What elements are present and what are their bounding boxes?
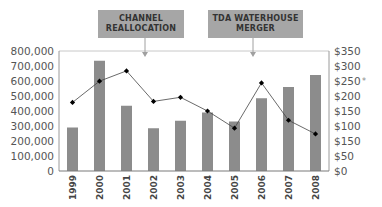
x-tick-label: 2001 <box>122 175 132 200</box>
right-tick-label: $150 <box>334 135 361 147</box>
left-tick-label: 0 <box>47 165 54 177</box>
x-tick-label: 2005 <box>230 175 240 200</box>
price-marker-2006 <box>259 80 264 85</box>
annotation-channel-reallocation: CHANNEL REALLOCATION <box>98 10 184 38</box>
annotation-line: REALLOCATION <box>106 24 176 34</box>
left-tick-label: 300,000 <box>11 120 54 132</box>
bar-2001 <box>121 106 132 171</box>
bar-2003 <box>175 121 186 171</box>
annotation-line: CHANNEL <box>106 14 176 24</box>
bar-2007 <box>283 87 294 171</box>
left-tick-label: 700,000 <box>11 60 54 72</box>
left-tick-label: 400,000 <box>11 105 54 117</box>
chart-canvas: 0100,000200,000300,000400,000500,000600,… <box>0 0 382 207</box>
x-tick-label: 2006 <box>257 175 267 200</box>
left-tick-label: 200,000 <box>11 135 54 147</box>
left-tick-label: 800,000 <box>11 45 54 57</box>
right-tick-label: $100 <box>334 120 361 132</box>
x-tick-label: 2007 <box>284 175 294 200</box>
x-tick-label: 2008 <box>311 175 321 200</box>
bar-2008 <box>310 75 321 171</box>
x-tick-label: 2000 <box>95 175 105 200</box>
left-tick-label: 100,000 <box>11 150 54 162</box>
asterisk-mark: * <box>362 77 366 86</box>
annotation-line: TDA WATERHOUSE <box>212 14 298 24</box>
bar-2006 <box>256 98 267 171</box>
right-tick-label: $0 <box>334 165 347 177</box>
x-tick-label: 1999 <box>68 175 78 200</box>
x-tick-label: 2004 <box>203 175 213 200</box>
x-tick-label: 2003 <box>176 175 186 200</box>
bar-2000 <box>94 61 105 171</box>
left-tick-label: 600,000 <box>11 75 54 87</box>
right-tick-label: $50 <box>334 150 354 162</box>
bar-2004 <box>202 113 213 172</box>
bar-2002 <box>148 128 159 171</box>
right-tick-label: $300 <box>334 60 361 72</box>
x-tick-label: 2002 <box>149 175 159 200</box>
annotation-arrow-icon <box>250 52 256 57</box>
right-tick-label: $200 <box>334 90 361 102</box>
combo-chart: 0100,000200,000300,000400,000500,000600,… <box>0 0 382 207</box>
right-tick-label: $350 <box>334 45 361 57</box>
price-line <box>73 71 316 134</box>
annotation-tda-waterhouse-merger: TDA WATERHOUSE MERGER <box>208 10 303 38</box>
annotation-line: MERGER <box>212 24 298 34</box>
right-tick-label: $150 <box>334 105 361 117</box>
left-tick-label: 500,000 <box>11 90 54 102</box>
price-marker-2003 <box>178 95 183 100</box>
bar-1999 <box>67 128 78 172</box>
annotation-arrow-icon <box>142 52 148 57</box>
right-tick-label: $250 <box>334 75 361 87</box>
